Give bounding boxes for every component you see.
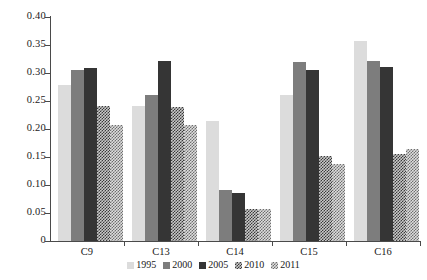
bar-c16-2005 <box>380 67 393 241</box>
bar-c16-1995 <box>354 41 367 241</box>
bar-c13-2005 <box>158 61 171 241</box>
bar-c9-2005 <box>84 68 97 241</box>
bar-c13-2010 <box>171 107 184 241</box>
bar-c14-2005 <box>232 193 245 241</box>
bar-c16-2011 <box>406 149 419 241</box>
legend-swatch-icon-2010 <box>235 262 242 269</box>
bar-c13-2011 <box>184 125 197 241</box>
y-axis-tick-label: 0.15 <box>4 150 46 161</box>
y-axis-tick <box>45 213 51 214</box>
bar-c16-2000 <box>367 61 380 241</box>
bar-c14-2010 <box>245 209 258 241</box>
bar-group-c16 <box>354 17 419 241</box>
x-axis-label-c14: C14 <box>205 246 265 257</box>
bar-c15-2005 <box>306 70 319 241</box>
bar-group-c9 <box>58 17 123 241</box>
bar-c16-2010 <box>393 154 406 241</box>
bar-c15-1995 <box>280 95 293 241</box>
y-axis-tick <box>45 129 51 130</box>
legend-label-2011: 2011 <box>280 260 300 270</box>
x-axis-label-c15: C15 <box>279 246 339 257</box>
bar-c14-2000 <box>219 190 232 241</box>
bar-c14-2011 <box>258 209 271 241</box>
y-axis-tick-label: 0.20 <box>4 122 46 133</box>
x-axis-label-c9: C9 <box>57 246 117 257</box>
bar-c13-1995 <box>132 106 145 241</box>
y-axis-tick-label: 0 <box>4 234 46 245</box>
bar-c13-2000 <box>145 95 158 241</box>
legend-swatch-icon-2011 <box>271 262 278 269</box>
bar-c14-1995 <box>206 121 219 241</box>
x-axis-tick <box>346 241 347 246</box>
legend-swatch-icon-2005 <box>199 262 206 269</box>
y-axis-tick-label: 0.40 <box>4 10 46 21</box>
legend-item-2011[interactable]: 2011 <box>271 260 300 270</box>
x-axis-label-c13: C13 <box>131 246 191 257</box>
legend-label-2005: 2005 <box>208 260 228 270</box>
x-axis-tick <box>272 241 273 246</box>
bar-group-c15 <box>280 17 345 241</box>
legend-swatch-icon-1995 <box>127 262 134 269</box>
legend-label-1995: 1995 <box>136 260 156 270</box>
x-axis-line <box>50 241 420 242</box>
legend-item-1995[interactable]: 1995 <box>127 260 156 270</box>
bar-c15-2010 <box>319 156 332 241</box>
x-axis-label-c16: C16 <box>353 246 413 257</box>
y-axis-tick-label: 0.25 <box>4 94 46 105</box>
bar-chart: 00.050.100.150.200.250.300.350.40 199520… <box>0 0 427 280</box>
legend-swatch-icon-2000 <box>163 262 170 269</box>
legend-label-2010: 2010 <box>244 260 264 270</box>
y-axis-tick <box>45 17 51 18</box>
y-axis-tick-label: 0.10 <box>4 178 46 189</box>
bar-group-c13 <box>132 17 197 241</box>
y-axis-tick <box>45 45 51 46</box>
legend-item-2010[interactable]: 2010 <box>235 260 264 270</box>
y-axis-tick <box>45 157 51 158</box>
y-axis-tick <box>45 241 51 242</box>
legend-label-2000: 2000 <box>172 260 192 270</box>
bar-c9-2011 <box>110 125 123 241</box>
y-axis-tick <box>45 101 51 102</box>
x-axis-tick <box>124 241 125 246</box>
legend-item-2005[interactable]: 2005 <box>199 260 228 270</box>
y-axis-tick-label: 0.35 <box>4 38 46 49</box>
y-axis-tick-label: 0.05 <box>4 206 46 217</box>
bar-c9-2010 <box>97 106 110 241</box>
y-axis-labels: 00.050.100.150.200.250.300.350.40 <box>0 0 46 280</box>
bar-group-c14 <box>206 17 271 241</box>
legend-item-2000[interactable]: 2000 <box>163 260 192 270</box>
y-axis-tick <box>45 185 51 186</box>
y-axis-tick <box>45 73 51 74</box>
bar-c15-2011 <box>332 164 345 241</box>
x-axis-tick <box>420 241 421 246</box>
x-axis-tick <box>198 241 199 246</box>
y-axis-tick-label: 0.30 <box>4 66 46 77</box>
chart-legend: 19952000200520102011 <box>0 260 427 270</box>
bar-c9-2000 <box>71 70 84 241</box>
bar-c9-1995 <box>58 85 71 241</box>
bar-c15-2000 <box>293 62 306 241</box>
